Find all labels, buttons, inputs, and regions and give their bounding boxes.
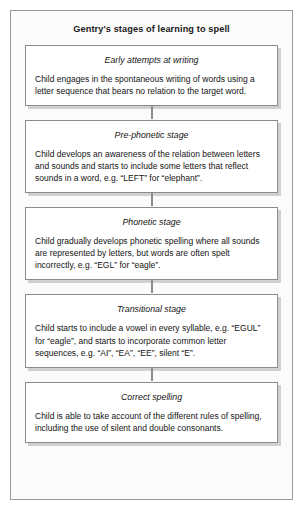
connector-1-to-2 [151,105,153,119]
stage-box-5: Correct spelling Child is able to take a… [25,382,278,443]
flowchart: Early attempts at writing Child engages … [25,45,278,443]
stage-box-3: Phonetic stage Child gradually develops … [25,207,278,280]
stage-box-2: Pre-phonetic stage Child develops an awa… [25,120,278,193]
stage-title-4: Transitional stage [35,304,268,315]
connector-3-to-4 [151,279,153,293]
figure-title: Gentry's stages of learning to spell [21,24,282,35]
stage-box-1: Early attempts at writing Child engages … [25,45,278,106]
stage-body-5: Child is able to take account of the dif… [35,410,268,434]
figure-frame: Gentry's stages of learning to spell Ear… [10,10,293,500]
stage-body-2: Child develops an awareness of the relat… [35,148,268,184]
stage-body-1: Child engages in the spontaneous writing… [35,73,268,97]
stage-title-1: Early attempts at writing [35,55,268,66]
stage-title-5: Correct spelling [35,392,268,403]
stage-title-2: Pre-phonetic stage [35,130,268,141]
connector-4-to-5 [151,367,153,381]
connector-2-to-3 [151,192,153,206]
stage-title-3: Phonetic stage [35,217,268,228]
stage-box-4: Transitional stage Child starts to inclu… [25,294,278,367]
stage-body-4: Child starts to include a vowel in every… [35,322,268,358]
stage-body-3: Child gradually develops phonetic spelli… [35,235,268,271]
